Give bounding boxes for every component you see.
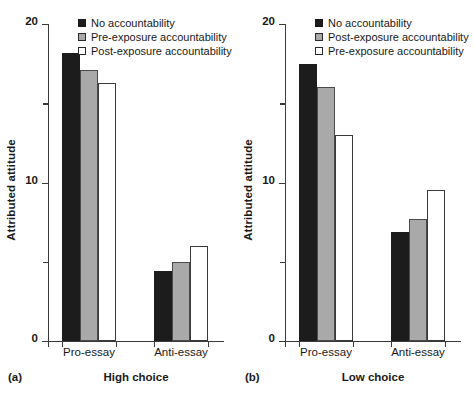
bar-b-anti-post-exposure bbox=[409, 219, 427, 341]
y-tick-5-b bbox=[280, 262, 285, 263]
bar-a-pro-pre-exposure bbox=[80, 70, 98, 341]
legend-swatch-gray-icon bbox=[78, 33, 86, 41]
y-tick-15-b bbox=[280, 103, 285, 104]
legend-swatch-white-icon bbox=[315, 47, 323, 55]
bar-a-pro-post-exposure bbox=[98, 83, 116, 341]
bar-b-anti-pre-exposure bbox=[427, 190, 445, 341]
panel-title-a: High choice bbox=[48, 371, 224, 383]
plot-area-b: 20 10 0 Pro-essay Anti-essay bbox=[285, 24, 461, 341]
bar-b-pro-no-accountability bbox=[299, 64, 317, 341]
plot-area-a: 20 10 0 Pro-essay Ant bbox=[48, 24, 224, 341]
legend-a: No accountability Pre-exposure accountab… bbox=[78, 17, 232, 59]
legend-swatch-black-icon bbox=[78, 19, 86, 27]
x-label-anti-essay-b: Anti-essay bbox=[391, 346, 445, 358]
legend-item-b-0: No accountability bbox=[315, 17, 469, 30]
y-tick-10-b: 10 bbox=[279, 183, 285, 184]
panel-low-choice: Attributed attitude 20 10 0 bbox=[237, 0, 474, 399]
legend-item-b-2: Pre-exposure accountability bbox=[315, 45, 469, 58]
legend-item-b-1: Post-exposure accountability bbox=[315, 31, 469, 44]
x-axis-line-b bbox=[285, 341, 461, 342]
legend-item-a-2: Post-exposure accountability bbox=[78, 45, 232, 58]
y-tick-20-a: 20 bbox=[42, 24, 48, 25]
x-tick-g2-right-a bbox=[208, 341, 209, 347]
panel-high-choice: Attributed attitude 20 10 0 bbox=[0, 0, 237, 399]
y-tick-20-b: 20 bbox=[279, 24, 285, 25]
panel-title-b: Low choice bbox=[285, 371, 461, 383]
y-tick-15-a bbox=[43, 103, 48, 104]
x-tick-g2-right-b bbox=[445, 341, 446, 347]
bar-b-anti-no-accountability bbox=[391, 232, 409, 341]
panel-tag-b: (b) bbox=[245, 371, 260, 383]
bar-b-pro-post-exposure bbox=[317, 87, 335, 341]
bar-a-anti-no-accountability bbox=[154, 271, 172, 341]
y-axis-title-a: Attributed attitude bbox=[0, 95, 22, 285]
x-tick-start-b bbox=[285, 341, 286, 347]
figure-bar-charts: Attributed attitude 20 10 0 bbox=[0, 0, 474, 399]
bar-a-anti-post-exposure bbox=[190, 246, 208, 341]
x-axis-line-a bbox=[48, 341, 224, 342]
x-label-anti-essay-a: Anti-essay bbox=[154, 346, 208, 358]
bar-b-pro-pre-exposure bbox=[335, 135, 353, 341]
y-axis-line-a bbox=[48, 24, 49, 341]
y-axis-title-b: Attributed attitude bbox=[237, 95, 259, 285]
legend-item-a-1: Pre-exposure accountability bbox=[78, 31, 232, 44]
x-label-pro-essay-b: Pro-essay bbox=[300, 346, 352, 358]
legend-swatch-black-icon bbox=[315, 19, 323, 27]
legend-swatch-white-icon bbox=[78, 47, 86, 55]
legend-item-a-0: No accountability bbox=[78, 17, 232, 30]
x-tick-start-a bbox=[48, 341, 49, 347]
legend-swatch-gray-icon bbox=[315, 33, 323, 41]
x-label-pro-essay-a: Pro-essay bbox=[63, 346, 115, 358]
y-tick-10-a: 10 bbox=[42, 183, 48, 184]
y-axis-line-b bbox=[285, 24, 286, 341]
panel-tag-a: (a) bbox=[8, 371, 22, 383]
bar-a-pro-no-accountability bbox=[62, 53, 80, 342]
x-tick-g1-right-a bbox=[116, 341, 117, 347]
y-tick-5-a bbox=[43, 262, 48, 263]
legend-b: No accountability Post-exposure accounta… bbox=[315, 17, 469, 59]
x-tick-g1-right-b bbox=[353, 341, 354, 347]
bar-a-anti-pre-exposure bbox=[172, 262, 190, 341]
